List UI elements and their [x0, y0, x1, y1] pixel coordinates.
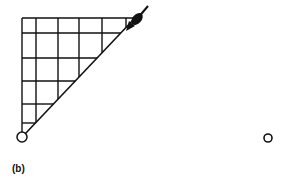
staircase-diagram: [0, 0, 291, 185]
diagonal-line: [25, 18, 135, 134]
end-circle-icon: [264, 134, 272, 142]
start-circle-icon: [17, 132, 27, 142]
panel-label: (b): [12, 163, 25, 174]
